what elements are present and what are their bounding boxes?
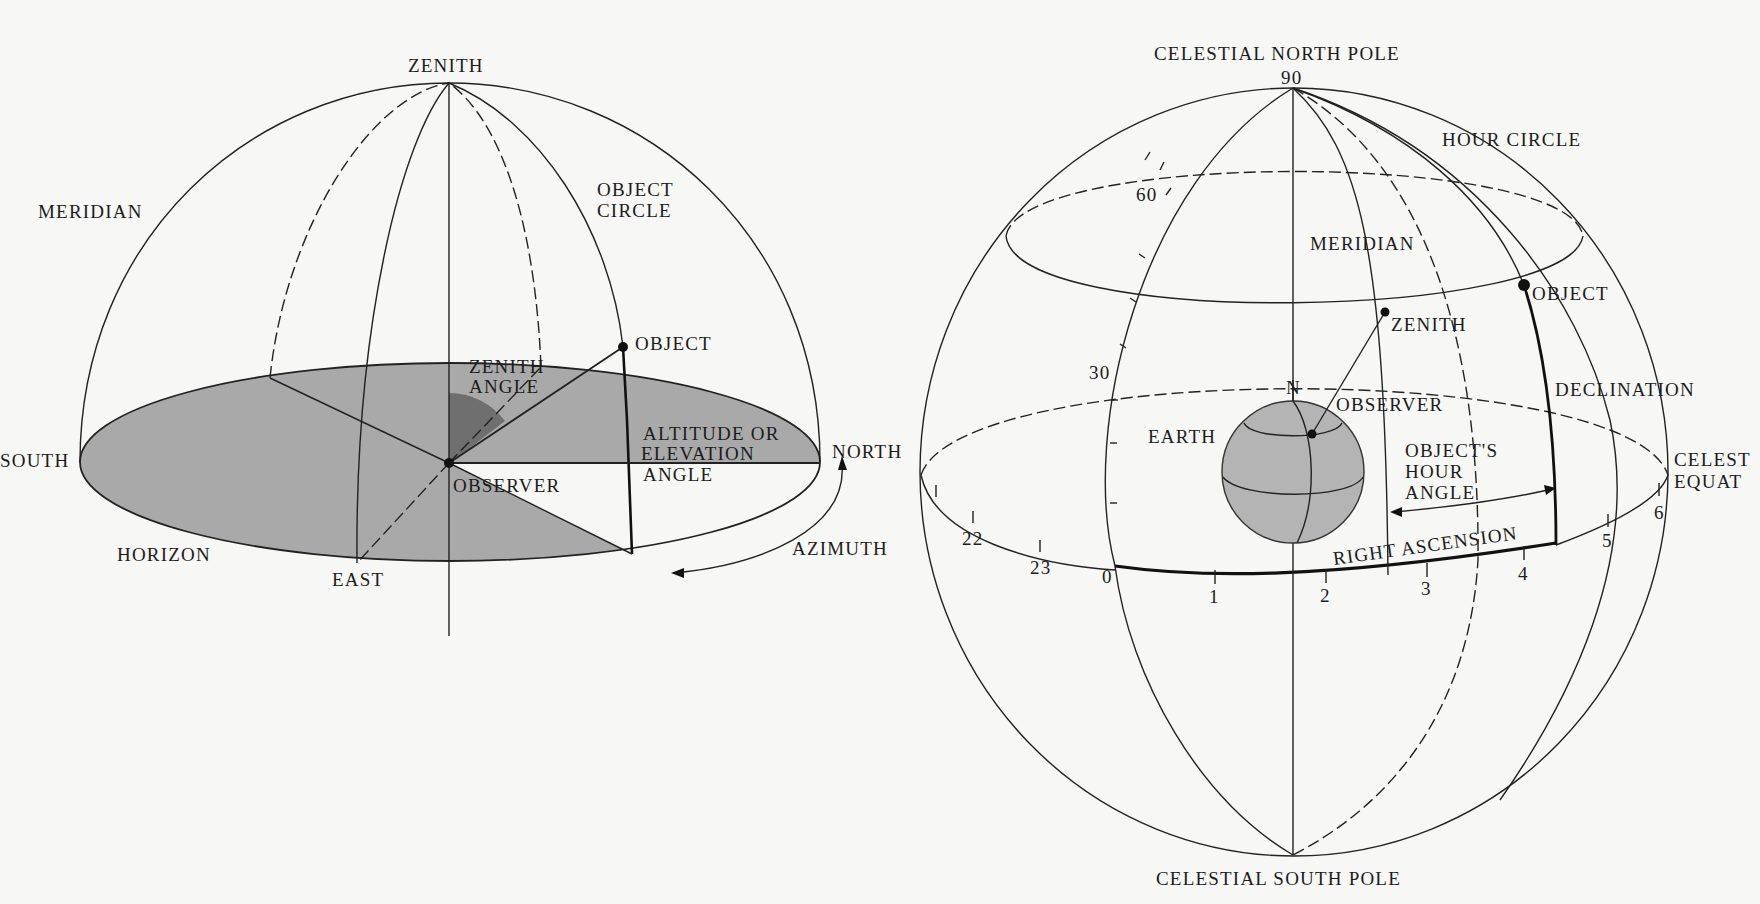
celestial-coordinates-diagram: ZENITH MERIDIAN OBJECT CIRCLE OBJECT ZEN… bbox=[0, 0, 1760, 904]
ra-label-3: 3 bbox=[1421, 578, 1432, 599]
vertical-circle-back-right bbox=[449, 83, 541, 367]
ra-label-2: 2 bbox=[1320, 585, 1331, 606]
dec-label-90: 90 bbox=[1281, 67, 1302, 88]
celestial-equator-front-left bbox=[921, 475, 1115, 570]
label-object: OBJECT bbox=[635, 333, 712, 354]
horizon-system-figure: ZENITH MERIDIAN OBJECT CIRCLE OBJECT ZEN… bbox=[0, 55, 902, 636]
earth-sphere bbox=[1222, 401, 1364, 543]
label-celestial-equator-2: EQUAT bbox=[1674, 471, 1742, 492]
observer-point bbox=[1308, 430, 1317, 439]
label-meridian: MERIDIAN bbox=[38, 201, 143, 222]
label-azimuth: AZIMUTH bbox=[792, 538, 888, 559]
label-celestial-south-pole: CELESTIAL SOUTH POLE bbox=[1156, 868, 1401, 889]
label-celestial-equator-1: CELEST bbox=[1674, 449, 1751, 470]
label-celestial-north-pole: CELESTIAL NORTH POLE bbox=[1154, 43, 1400, 64]
ra-label-1: 1 bbox=[1209, 586, 1220, 607]
diagram-stage: ZENITH MERIDIAN OBJECT CIRCLE OBJECT ZEN… bbox=[0, 0, 1760, 904]
label-zenith-angle-2: ANGLE bbox=[469, 376, 539, 397]
observer-point bbox=[444, 458, 454, 468]
ra-label-23: 23 bbox=[1030, 557, 1051, 578]
label-north: NORTH bbox=[832, 441, 902, 462]
label-horizon: HORIZON bbox=[117, 544, 211, 565]
dec-tick bbox=[1160, 162, 1164, 170]
label-object: OBJECT bbox=[1532, 283, 1609, 304]
declination-circle-back bbox=[1006, 172, 1583, 237]
label-altitude-1: ALTITUDE OR bbox=[643, 423, 780, 444]
label-object-circle-1: OBJECT bbox=[597, 179, 674, 200]
dec-tick bbox=[1139, 254, 1145, 258]
zenith-point bbox=[1381, 308, 1390, 317]
label-altitude-2: ELEVATION bbox=[641, 443, 755, 464]
observer-zenith-line bbox=[1312, 312, 1385, 434]
label-altitude-3: ANGLE bbox=[643, 464, 713, 485]
label-zenith-angle-1: ZENITH bbox=[469, 356, 545, 377]
ra-label-4: 4 bbox=[1518, 563, 1529, 584]
object-point bbox=[1518, 279, 1530, 291]
label-zenith: ZENITH bbox=[408, 55, 484, 76]
dec-label-60: 60 bbox=[1136, 184, 1157, 205]
dec-tick bbox=[1130, 298, 1136, 302]
equatorial-system-figure: CELESTIAL NORTH POLE 90 60 30 HOUR CIRCL… bbox=[920, 43, 1751, 889]
label-declination: DECLINATION bbox=[1555, 379, 1695, 400]
hour-circle-object-upper bbox=[1293, 88, 1524, 285]
declination-circle-front bbox=[1006, 236, 1583, 303]
label-hour-angle-1: OBJECT'S bbox=[1405, 440, 1498, 461]
label-observer: OBSERVER bbox=[453, 475, 560, 496]
ra-label-6: 6 bbox=[1654, 502, 1665, 523]
label-south: SOUTH bbox=[0, 450, 69, 471]
label-observer: OBSERVER bbox=[1336, 394, 1443, 415]
ra-label-22: 22 bbox=[962, 528, 983, 549]
azimuth-arrowhead-end bbox=[671, 568, 684, 578]
label-hour-angle-2: HOUR bbox=[1405, 461, 1464, 482]
object-point bbox=[618, 342, 628, 352]
label-hour-circle: HOUR CIRCLE bbox=[1442, 129, 1581, 150]
ra-label-5: 5 bbox=[1602, 530, 1613, 551]
label-hour-angle-3: ANGLE bbox=[1405, 482, 1475, 503]
dec-tick bbox=[1145, 152, 1150, 160]
label-n: N bbox=[1286, 377, 1301, 398]
label-object-circle-2: CIRCLE bbox=[597, 200, 672, 221]
declination-arc bbox=[1524, 285, 1556, 545]
label-meridian: MERIDIAN bbox=[1310, 233, 1415, 254]
label-earth: EARTH bbox=[1148, 426, 1216, 447]
label-east: EAST bbox=[332, 569, 384, 590]
ra-label-0: 0 bbox=[1102, 566, 1113, 587]
label-zenith: ZENITH bbox=[1391, 314, 1467, 335]
dec-tick bbox=[1166, 188, 1171, 195]
dec-label-30: 30 bbox=[1089, 362, 1110, 383]
hour-angle-arrowhead-left bbox=[1390, 507, 1402, 517]
